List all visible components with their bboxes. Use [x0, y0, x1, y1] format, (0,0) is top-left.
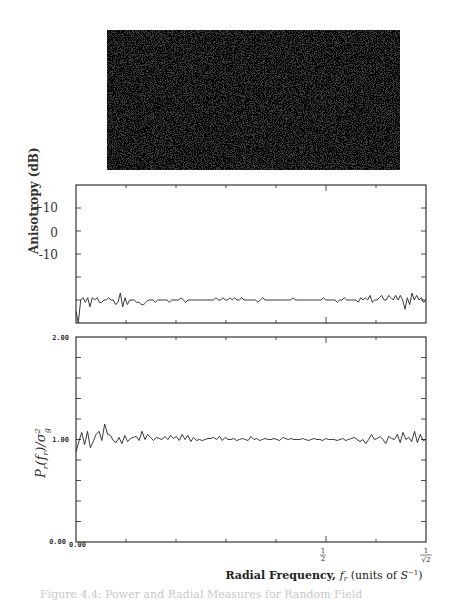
xtick-label-inv-sqrt2: 1 √2 [420, 547, 432, 564]
xtick-label-half: 1 2 [320, 547, 326, 563]
radial-power-series-line [76, 424, 426, 452]
figure: +10 0 -10 Anisotropy (dB) 2.00 1.00 0.00… [0, 0, 453, 602]
anisotropy-plot: +10 0 -10 Anisotropy (dB) [27, 147, 426, 323]
svg-text:√2: √2 [422, 556, 431, 564]
ytick-label-2: 2.00 [52, 334, 69, 342]
ytick-label-0: 0 [50, 226, 58, 240]
svg-text:1: 1 [424, 547, 428, 555]
xtick-label-0: 0.00 [69, 541, 86, 549]
radial-power-plot: 2.00 1.00 0.00 0.00 1 2 1 √2 Pr(fr)/σ2g … [33, 334, 432, 583]
ytick-label-0: 0.00 [49, 538, 66, 546]
ytick-label-minus10: -10 [39, 248, 58, 262]
anisotropy-ylabel: Anisotropy (dB) [27, 147, 41, 255]
ytick-label-1: 1.00 [52, 436, 69, 444]
svg-text:1: 1 [321, 547, 325, 555]
anisotropy-series-line [76, 293, 426, 323]
svg-text:2: 2 [321, 555, 325, 563]
radial-power-axis-ticks [76, 337, 426, 542]
figure-caption: Figure 4.4: Power and Radial Measures fo… [40, 588, 440, 601]
x-axis-label: Radial Frequency, fr (units of S−1) [225, 569, 422, 583]
random-field-image [107, 30, 400, 170]
radial-power-ylabel: Pr(fr)/σ2g [33, 428, 51, 479]
